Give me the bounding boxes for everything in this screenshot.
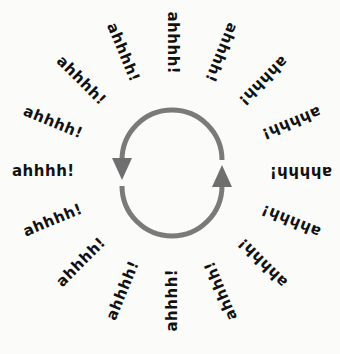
ring-word: ahhhh!	[165, 12, 180, 75]
radial-diagram: ahhhh!ahhhh!ahhhh!ahhhh!ahhhh!ahhhh!ahhh…	[0, 0, 340, 354]
ring-word: ahhhh!	[269, 164, 332, 179]
ring-word: ahhhh!	[165, 269, 180, 332]
ring-word: ahhhh!	[12, 164, 75, 179]
